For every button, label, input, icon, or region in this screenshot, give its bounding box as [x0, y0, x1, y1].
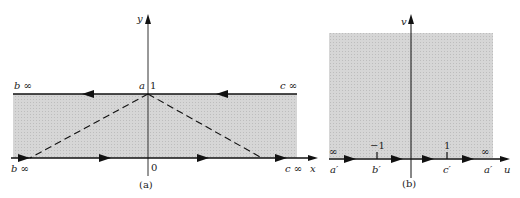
top-right-label: c ∞ [280, 80, 297, 91]
u-axis-label: u [504, 164, 510, 175]
y-one-label: 1 [150, 80, 156, 91]
strip-region [13, 94, 297, 158]
b-prime-label: b′ [372, 164, 381, 175]
x-axis-label: x [310, 163, 316, 174]
figure-a: y a 1 b ∞ c ∞ b ∞ 0 c ∞ x (a) [11, 13, 318, 190]
origin-label: 0 [151, 162, 157, 173]
y-axis-label: y [136, 13, 143, 24]
tick-minus-one-label: −1 [370, 140, 385, 151]
bottom-left-label: b ∞ [11, 163, 29, 174]
caption-a: (a) [139, 179, 153, 190]
v-axis-label: v [401, 16, 407, 27]
v-axis-arrow-icon [408, 14, 414, 24]
point-a-label: a [139, 80, 145, 91]
left-infinity-label: ∞ [329, 146, 337, 157]
c-prime-label: c′ [443, 164, 452, 175]
figure-b: v −1 1 ∞ ∞ a′ b′ c′ a′ u (b) [329, 14, 510, 189]
tick-one-label: 1 [444, 140, 450, 151]
a-prime-left-label: a′ [330, 164, 339, 175]
conformal-map-figure: y a 1 b ∞ c ∞ b ∞ 0 c ∞ x (a) v −1 1 ∞ ∞… [0, 0, 520, 198]
y-axis-arrow-icon [145, 14, 151, 24]
right-infinity-label: ∞ [481, 146, 489, 157]
u-axis-arrow-icon [500, 156, 510, 162]
caption-b: (b) [402, 178, 416, 189]
bottom-right-label: c ∞ [285, 163, 302, 174]
top-left-label: b ∞ [14, 80, 32, 91]
x-axis-arrow-icon [308, 155, 318, 161]
a-prime-right-label: a′ [484, 164, 493, 175]
